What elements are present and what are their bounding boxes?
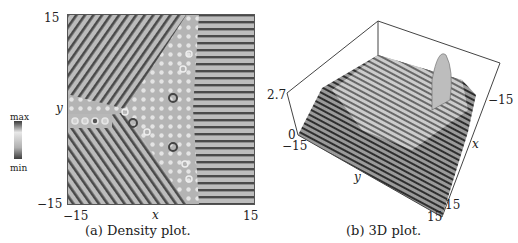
x-axis-label: x xyxy=(152,208,159,222)
y-tick-min: −15 xyxy=(37,198,62,210)
x-axis-label: x xyxy=(472,137,479,151)
y-tick-max: 15 xyxy=(44,12,59,24)
x-tick-min: −15 xyxy=(63,210,88,222)
y-axis-label: y xyxy=(354,170,361,184)
caption-b: (b) 3D plot. xyxy=(346,223,421,238)
y-axis-label: y xyxy=(56,101,63,115)
surface-3d xyxy=(262,0,518,225)
x-tick-max: 15 xyxy=(445,199,460,211)
caption-a: (a) Density plot. xyxy=(85,223,191,238)
surface-plot-panel: 2.7 0 −15 y 15 15 x −15 (b) 3D plot. xyxy=(262,0,518,243)
z-tick-max: 2.7 xyxy=(267,89,286,101)
colorbar xyxy=(12,121,26,159)
x-tick-max: 15 xyxy=(243,210,258,222)
density-plot-panel: 15 −15 y −15 x 15 (a) Density plot. max … xyxy=(0,0,262,243)
y-tick-min: −15 xyxy=(282,140,307,152)
density-heatmap xyxy=(67,14,255,205)
y-tick-max: 15 xyxy=(427,211,442,223)
x-tick-min: −15 xyxy=(488,94,513,106)
colorbar-min-label: min xyxy=(10,163,27,173)
